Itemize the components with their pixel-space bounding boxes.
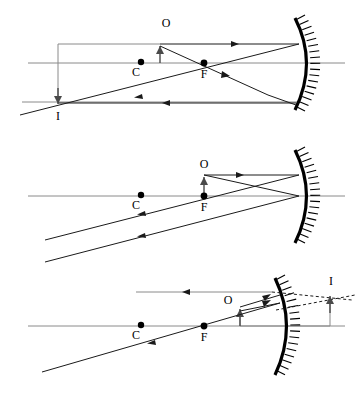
ray-diagram-figure: O I C F <box>0 0 360 393</box>
reflected-diverging-ray-3 <box>42 303 280 372</box>
virtual-ray-3b <box>276 295 355 310</box>
ray-arrowhead <box>231 41 239 47</box>
panel-1: O I C F <box>20 15 345 123</box>
object-label-1: O <box>162 16 171 30</box>
center-label-2: C <box>132 198 140 212</box>
ray-arrowhead <box>182 289 190 295</box>
reflected-ray-2b <box>45 196 299 262</box>
image-label-1: I <box>56 109 60 123</box>
panel-2: O C F <box>28 147 345 262</box>
focal-point-2 <box>201 193 208 200</box>
object-label-3: O <box>224 293 233 307</box>
ray-arrowhead <box>162 100 170 106</box>
concave-mirror <box>295 18 307 110</box>
incident-ray-3b <box>240 303 280 311</box>
ray-arrowhead <box>134 94 143 99</box>
object-label-2: O <box>200 157 209 171</box>
center-label-3: C <box>132 328 140 342</box>
ray-arrowhead <box>236 172 244 178</box>
reflected-ray-2a <box>45 175 299 240</box>
focal-point-3 <box>201 323 208 330</box>
ray-through-f-1 <box>160 46 268 95</box>
focal-point-1 <box>201 60 208 67</box>
focus-label-2: F <box>201 200 208 214</box>
focus-label-3: F <box>201 330 208 344</box>
panel-3: O I C F <box>28 274 355 375</box>
center-label-1: C <box>132 65 140 79</box>
focus-label-1: F <box>201 67 208 81</box>
image-label-3: I <box>329 274 333 288</box>
